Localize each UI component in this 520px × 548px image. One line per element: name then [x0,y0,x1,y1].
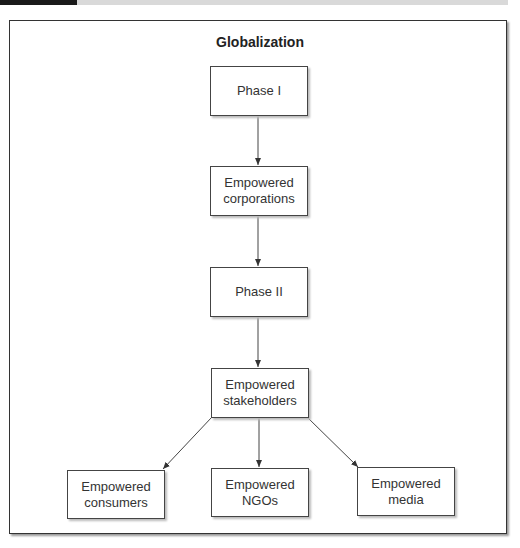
node-empowered-consumers: Empowered consumers [67,470,165,519]
node-empowered-corporations: Empowered corporations [210,166,308,216]
node-empowered-media: Empowered media [357,467,455,516]
node-phase-2: Phase II [210,267,308,317]
node-empowered-stakeholders: Empowered stakeholders [211,368,309,418]
node-phase-1: Phase I [210,66,308,116]
arrow-stakeholders-media [307,417,358,467]
node-empowered-ngos: Empowered NGOs [211,468,309,517]
arrow-stakeholders-consumers [163,417,212,469]
